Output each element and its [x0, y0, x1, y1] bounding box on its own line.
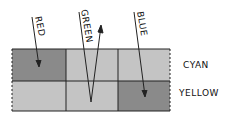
- cell-cyan-2: [66, 49, 118, 81]
- cell-yellow-1: [12, 81, 66, 111]
- cell-cyan-3: [118, 49, 170, 81]
- yellow-label: YELLOW: [178, 88, 219, 98]
- filter-diagram: RED GREEN BLUE CYAN YELLOW: [0, 0, 245, 120]
- red-label: RED: [33, 15, 47, 37]
- cyan-label: CYAN: [183, 60, 209, 70]
